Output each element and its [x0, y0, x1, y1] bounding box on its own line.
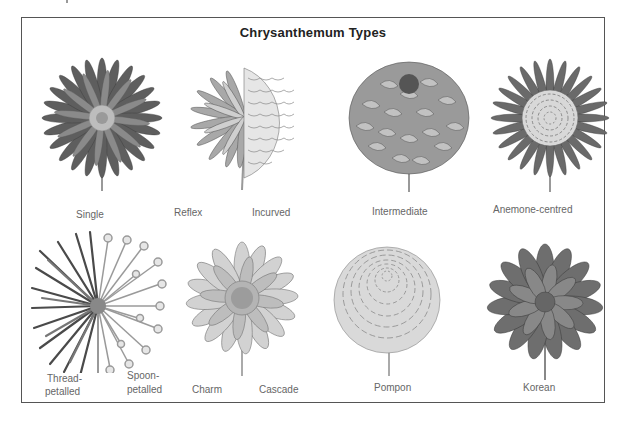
scan-mark: [66, 0, 68, 3]
figure-frame: Chrysanthemum Types: [21, 17, 605, 403]
flower-korean-illustration: [478, 240, 613, 380]
label-incurved: Incurved: [252, 207, 290, 219]
label-korean: Korean: [523, 382, 555, 394]
flower-anemone-centred-illustration: [484, 54, 616, 194]
label-thread-petalled-1: Thread-: [47, 373, 82, 385]
figure-title: Chrysanthemum Types: [22, 25, 604, 40]
flower-intermediate-illustration: [342, 54, 477, 194]
label-intermediate: Intermediate: [372, 206, 428, 218]
label-cascade: Cascade: [259, 384, 298, 396]
flower-thread-spoon-illustration: [28, 228, 168, 373]
label-reflex: Reflex: [174, 207, 202, 219]
label-single: Single: [76, 209, 104, 221]
flower-single-illustration: [32, 56, 172, 191]
label-charm: Charm: [192, 384, 222, 396]
label-pompon: Pompon: [374, 382, 411, 394]
label-spoon-petalled-2: petalled: [127, 384, 162, 396]
label-thread-petalled-2: petalled: [45, 386, 80, 398]
label-anemone-centred: Anemone-centred: [493, 204, 573, 216]
label-spoon-petalled-1: Spoon-: [127, 370, 159, 382]
flower-pompon-illustration: [327, 246, 447, 376]
flower-charm-cascade-illustration: [177, 236, 307, 376]
flower-reflex-incurved-illustration: [182, 54, 322, 194]
